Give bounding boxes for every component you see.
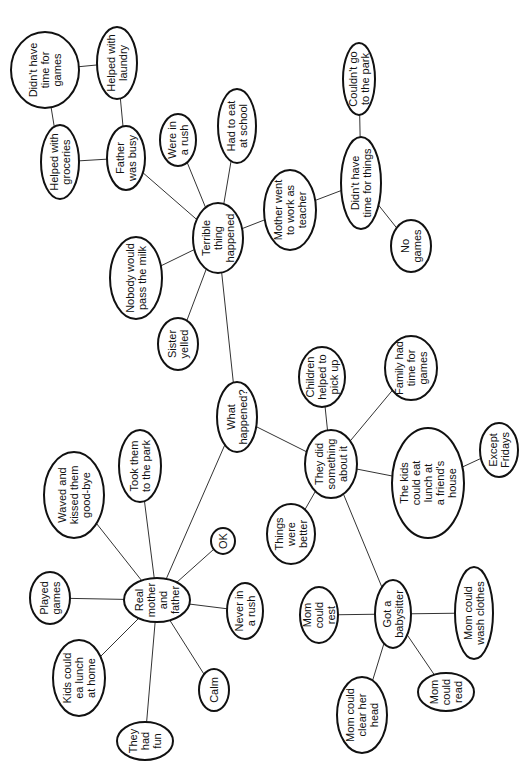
node-mother-teacher: Mother wentto work asteacher	[264, 170, 316, 250]
node-label-line: Helped with	[105, 34, 117, 91]
node-label-line: house	[446, 468, 458, 498]
node-label: Were ina rush	[166, 121, 190, 159]
node-label-line: fun	[151, 733, 163, 748]
node-mom-read: Momcouldread	[418, 673, 474, 711]
node-label-line: Mom could	[462, 586, 474, 640]
node-sister-yelled: Sisteryelled	[158, 318, 198, 370]
node-label-line: helped to	[316, 354, 328, 399]
node-label: They didsomethingabout it	[313, 439, 349, 490]
node-label-line: Family had	[393, 341, 405, 395]
node-label-line: pick up	[328, 360, 340, 395]
node-label-line: Helped with	[48, 133, 60, 190]
node-label-line: Except	[487, 433, 499, 467]
node-label-line: happened	[224, 214, 236, 263]
node-no-games: Nogames	[391, 220, 431, 272]
node-label: Nobody wouldpass the milk	[124, 243, 148, 313]
node-label-line: laundry	[117, 44, 129, 81]
node-label-line: happened?	[237, 389, 249, 444]
node-mom-clear-head: Mom couldclear herhead	[337, 677, 387, 753]
node-label-line: kissed them	[68, 466, 80, 525]
node-label-line: pass the milk	[136, 245, 148, 310]
node-played-games: Playedgames	[30, 572, 70, 624]
node-label-line: groceries	[60, 139, 72, 185]
node-label-line: yelled	[178, 330, 190, 359]
concept-map: Didn't havetime forgamesHelped withlaund…	[0, 0, 532, 773]
node-children-pickup: Childrenhelped topick up	[299, 347, 345, 407]
node-label-line: No	[399, 239, 411, 253]
node-label-line: thing	[212, 226, 224, 250]
node-label-line: Kids could	[61, 653, 73, 704]
nodes-layer: Didn't havetime forgamesHelped withlaund…	[11, 27, 518, 760]
node-were-in-rush: Were ina rush	[160, 114, 196, 166]
node-no-time-things: Didn't havetime for things	[341, 137, 381, 229]
node-label-line: Didn't have	[349, 156, 361, 211]
node-label: Helped withgroceries	[48, 133, 72, 190]
node-label-line: Mother went	[272, 180, 284, 241]
node-helped-groceries: Helped withgroceries	[41, 125, 79, 199]
node-label-line: ea lunch	[73, 657, 85, 699]
node-family-games: Family hadtime forgames	[385, 336, 437, 400]
node-label-line: games	[417, 351, 429, 385]
node-label-line: mother	[145, 583, 157, 618]
node-label-line: Were in	[166, 121, 178, 159]
node-label-line: at school	[237, 104, 249, 148]
node-terrible-thing: Terriblethinghappened	[193, 203, 243, 273]
node-label-line: Got a	[381, 600, 393, 628]
node-babysitter: Got ababysitter	[375, 580, 411, 648]
node-label-line: The kids	[398, 462, 410, 504]
node-label-line: read	[452, 681, 464, 703]
node-took-park: Took themto the park	[119, 430, 161, 502]
node-what-happened: Whathappened?	[217, 382, 257, 452]
node-label-line: clear her	[356, 693, 368, 736]
node-label-line: to work as	[284, 184, 296, 235]
node-label-line: could eat	[410, 461, 422, 506]
node-kids-friends: The kidscould eatlunch ata friend'shouse	[392, 428, 464, 538]
node-label-line: could	[440, 679, 452, 705]
node-label-line: Calm	[208, 677, 220, 703]
node-label-line: were	[285, 522, 297, 547]
node-label-line: good-bye	[80, 472, 92, 518]
node-nobody-milk: Nobody wouldpass the milk	[110, 237, 162, 319]
node-label-line: Waved and	[56, 467, 68, 522]
node-label-line: games	[51, 53, 63, 87]
node-label: Never ina rush	[233, 591, 257, 632]
node-except-fridays: ExceptFridays	[480, 423, 518, 477]
node-label-line: to the park	[140, 440, 152, 492]
node-label: Sisteryelled	[166, 330, 190, 359]
node-couldnt-park: Couldn't goto the park	[343, 43, 375, 115]
node-label-line: time for	[39, 51, 51, 88]
node-label-line: about it	[337, 446, 349, 482]
node-label-line: teacher	[296, 191, 308, 228]
node-label: Mom couldwash clothes	[462, 581, 486, 646]
node-label-line: Sister	[166, 330, 178, 358]
node-label-line: games	[411, 229, 423, 263]
node-label-line: Didn't have	[27, 43, 39, 98]
node-label-line: could	[313, 602, 325, 628]
node-label-line: time for things	[361, 148, 373, 218]
node-label-line: Nobody would	[124, 243, 136, 313]
node-label-line: wash clothes	[474, 581, 486, 646]
node-label: OK	[217, 532, 229, 549]
node-father-busy: Fatherwas busy	[107, 126, 145, 190]
node-label-line: Never in	[233, 591, 245, 632]
node-did-something: They didsomethingabout it	[305, 430, 357, 498]
node-label-line: rest	[325, 606, 337, 624]
node-label-line: Mom	[428, 680, 440, 704]
node-label-line: Children	[304, 357, 316, 398]
node-calm: Calm	[199, 669, 229, 711]
node-label: Couldn't goto the park	[347, 51, 371, 106]
node-label-line: babysitter	[393, 590, 405, 638]
node-label-line: Took them	[128, 441, 140, 492]
node-label: Calm	[208, 677, 220, 703]
node-label-line: time for	[405, 349, 417, 386]
node-label-line: a rush	[245, 596, 257, 627]
node-label-line: Fridays	[499, 431, 511, 468]
node-waved-kissed: Waved andkissed themgood-bye	[44, 452, 104, 538]
node-label: Playedgames	[38, 581, 62, 615]
node-label: Didn't havetime for things	[349, 148, 373, 218]
node-had-fun: Theyhadfun	[117, 722, 173, 760]
node-real-parents: Realmotherandfather	[124, 578, 190, 622]
node-label-line: better	[297, 520, 309, 548]
node-label-line: Played	[38, 581, 50, 615]
node-label: ExceptFridays	[487, 431, 511, 468]
